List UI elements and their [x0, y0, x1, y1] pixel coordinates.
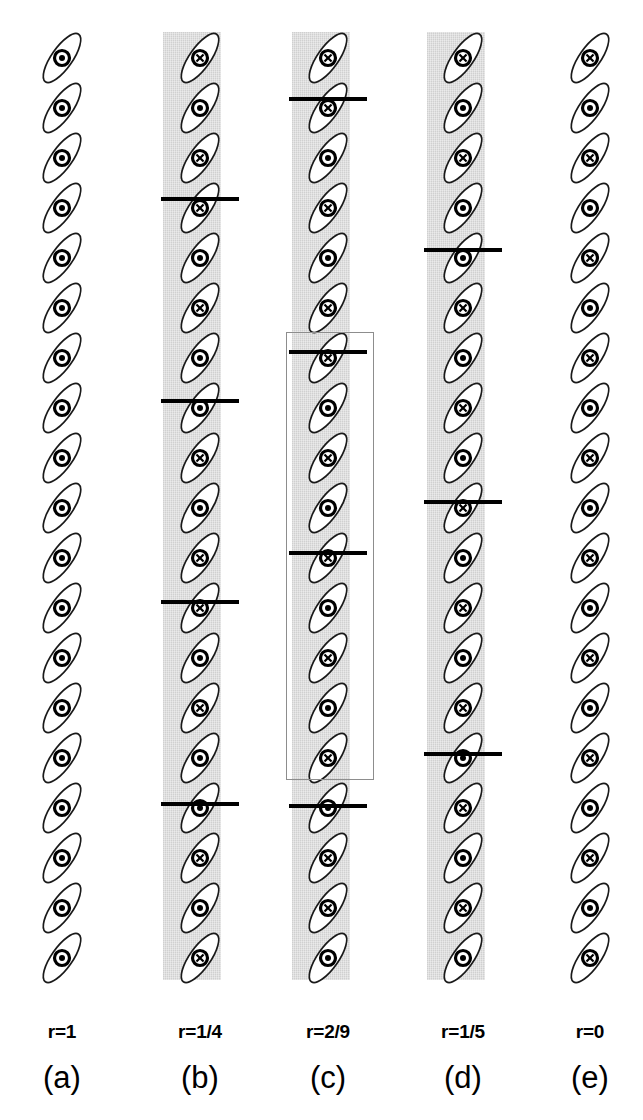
ratio-label-a: r=1 [2, 1022, 122, 1041]
panel-label-c: (c) [268, 1062, 388, 1093]
ratio-label-e: r=0 [530, 1022, 643, 1041]
ratio-label-b: r=1/4 [140, 1022, 260, 1041]
panel-label-e: (e) [530, 1062, 643, 1093]
ratio-label-d: r=1/5 [403, 1022, 523, 1041]
panel-label-d: (d) [403, 1062, 523, 1093]
column-e [0, 0, 643, 1010]
ratio-label-c: r=2/9 [268, 1022, 388, 1041]
figure-canvas: r=1(a)r=1/4(b)r=2/9(c)r=1/5(d)r=0(e) [0, 0, 643, 1120]
panel-label-b: (b) [140, 1062, 260, 1093]
circle-cross-marker [583, 951, 598, 966]
panel-label-a: (a) [2, 1062, 122, 1093]
